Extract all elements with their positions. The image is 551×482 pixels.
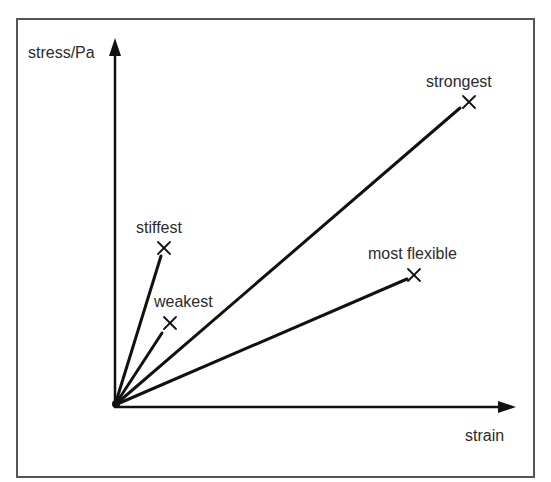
- y-axis: stress/Pa: [28, 38, 121, 406]
- series-weakest: weakest: [115, 293, 213, 405]
- x-axis: strain: [114, 401, 516, 444]
- fracture-marker-icon: [463, 96, 475, 108]
- y-axis-label: stress/Pa: [28, 44, 95, 61]
- series-most-flexible: most flexible: [115, 245, 457, 405]
- fracture-marker-icon: [408, 269, 420, 281]
- label-strongest: strongest: [426, 73, 492, 90]
- y-axis-arrow-icon: [109, 38, 121, 56]
- label-stiffest: stiffest: [136, 219, 183, 236]
- fracture-marker-icon: [164, 317, 176, 329]
- x-axis-arrow-icon: [498, 401, 516, 413]
- label-most-flexible: most flexible: [368, 245, 457, 262]
- stress-strain-diagram: stress/Pa strain stiffest weake: [0, 0, 551, 482]
- fracture-marker-icon: [158, 242, 170, 254]
- x-axis-label: strain: [465, 427, 504, 444]
- series-strongest: strongest: [115, 73, 492, 405]
- label-weakest: weakest: [153, 293, 213, 310]
